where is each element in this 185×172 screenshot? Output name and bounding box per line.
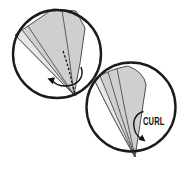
diagram-canvas: CURL [0, 0, 185, 172]
right-inset: CURL [87, 63, 176, 158]
curl-label: CURL [143, 116, 165, 127]
left-inset [13, 9, 101, 98]
instructional-diagram: CURL [0, 0, 185, 172]
